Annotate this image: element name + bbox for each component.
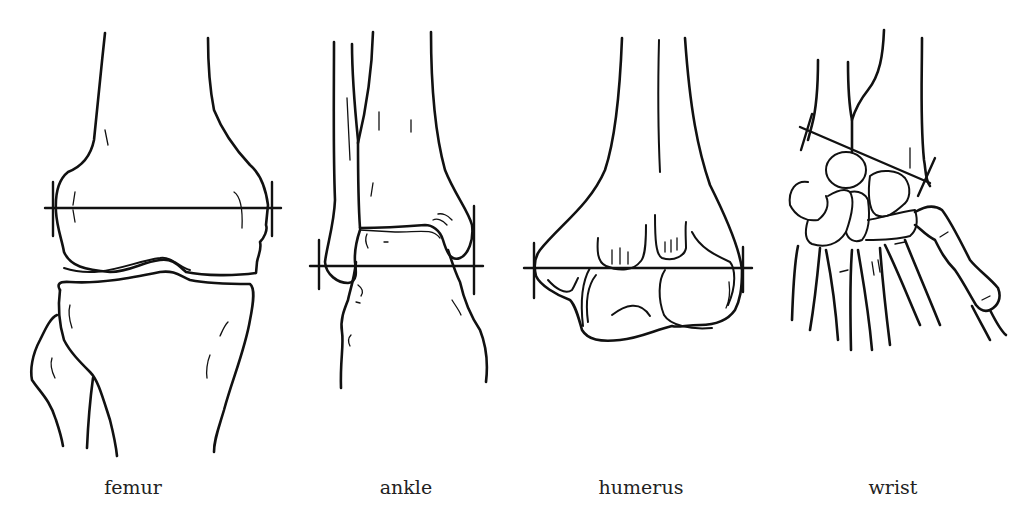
wrist-drawing bbox=[790, 30, 1006, 350]
label-humerus: humerus bbox=[599, 476, 684, 498]
femur-knee-drawing bbox=[31, 33, 281, 456]
label-femur: femur bbox=[104, 476, 162, 498]
humerus-drawing bbox=[524, 38, 752, 341]
label-wrist: wrist bbox=[869, 476, 918, 498]
joint-diagram bbox=[0, 0, 1032, 514]
ankle-drawing bbox=[310, 32, 487, 388]
label-ankle: ankle bbox=[380, 476, 432, 498]
